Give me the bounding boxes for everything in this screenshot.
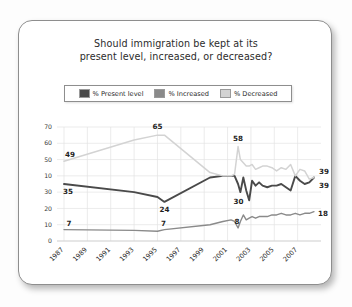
data-series-group — [64, 135, 314, 231]
data-label: 18 — [318, 209, 328, 218]
data-label: 7 — [67, 219, 72, 228]
legend-label-increased: % Increased — [168, 90, 208, 98]
x-tick-label: 1993 — [118, 246, 136, 264]
y-tick-label: 10 — [44, 172, 52, 179]
chart-card: Should immigration be kept at its presen… — [18, 20, 332, 285]
chart-legend: % Present level % Increased % Decreased — [64, 85, 292, 102]
chart-title: Should immigration be kept at its presen… — [41, 37, 311, 63]
data-label: 39 — [319, 181, 329, 190]
chart-title-line-2: present level, increased, or decreased? — [41, 50, 311, 63]
legend-label-present-level: % Present level — [93, 90, 144, 98]
data-label: 24 — [159, 205, 169, 214]
data-point-labels: 493576524758308393918 — [63, 122, 329, 227]
data-label: 39 — [319, 167, 329, 176]
chart-plot-area: 706050103020100 198719891991199319951997… — [19, 117, 333, 285]
data-label: 58 — [233, 134, 243, 143]
chart-title-line-1: Should immigration be kept at its — [41, 37, 311, 50]
screenshot-root: Should immigration be kept at its presen… — [0, 0, 352, 307]
x-tick-label: 2007 — [282, 246, 300, 264]
legend-swatch-decreased — [220, 89, 231, 98]
y-tick-label: 0 — [48, 237, 52, 244]
legend-item-present-level[interactable]: % Present level — [79, 89, 144, 98]
y-tick-label: 50 — [44, 156, 52, 163]
x-tick-label: 1995 — [141, 246, 159, 264]
series-line-decreased — [64, 135, 314, 179]
data-label: 49 — [65, 150, 75, 159]
data-label: 35 — [63, 187, 73, 196]
data-label: 65 — [152, 122, 162, 131]
y-tick-label: 30 — [44, 188, 52, 195]
y-tick-label: 70 — [44, 123, 52, 130]
data-label: 7 — [161, 219, 166, 228]
series-line-increased — [64, 212, 314, 232]
x-tick-label: 2001 — [211, 246, 229, 264]
legend-swatch-present-level — [79, 89, 90, 98]
legend-swatch-increased — [154, 89, 165, 98]
x-tick-label: 2003 — [235, 246, 253, 264]
x-tick-label: 1997 — [165, 246, 183, 264]
x-tick-label: 1989 — [71, 246, 89, 264]
line-chart-svg: 706050103020100 198719891991199319951997… — [19, 117, 333, 285]
series-line-presentlevel — [64, 176, 314, 202]
data-label: 30 — [233, 197, 243, 206]
y-tick-label: 20 — [44, 205, 52, 212]
x-tick-label: 2005 — [258, 246, 276, 264]
legend-item-increased[interactable]: % Increased — [154, 89, 208, 98]
y-tick-label: 10 — [44, 221, 52, 228]
x-tick-label: 1999 — [188, 246, 206, 264]
data-label: 8 — [235, 217, 240, 226]
x-tick-label: 1987 — [48, 246, 66, 264]
legend-item-decreased[interactable]: % Decreased — [220, 89, 277, 98]
y-axis-tick-labels: 706050103020100 — [44, 123, 52, 244]
x-tick-label: 1991 — [95, 246, 113, 264]
x-axis-tick-labels: 1987198919911993199519971999200120032005… — [48, 246, 299, 264]
y-tick-label: 60 — [44, 139, 52, 146]
legend-label-decreased: % Decreased — [234, 90, 277, 98]
